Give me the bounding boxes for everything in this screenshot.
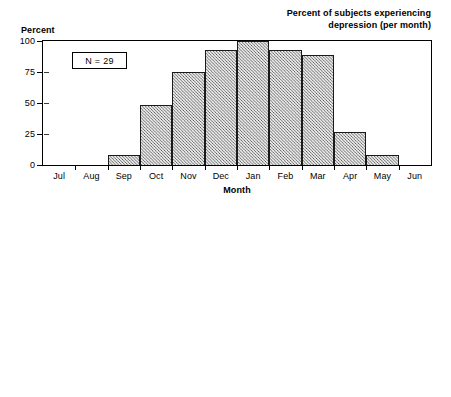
bar-slot (302, 41, 334, 165)
x-tick-label: Aug (75, 171, 107, 181)
bar-slot (269, 41, 301, 165)
y-minor-tick-mark (44, 103, 49, 104)
y-tick-mark (37, 41, 43, 42)
x-tick-mark (172, 165, 173, 170)
x-tick-mark (366, 165, 367, 170)
bar (366, 155, 398, 165)
bar (140, 105, 172, 165)
bar (108, 155, 140, 165)
x-axis-labels-depression: JulAugSepOctNovDecJanFebMarAprMayJun (43, 171, 431, 181)
x-tick-mark (205, 165, 206, 170)
x-tick-label: Jul (43, 171, 75, 181)
bar-slot (172, 41, 204, 165)
y-tick-label: 100 (20, 36, 35, 46)
x-tick-mark (75, 165, 76, 170)
bar (237, 41, 269, 165)
annotation-sample-size: N = 29 (72, 52, 127, 69)
x-tick-label: Oct (140, 171, 172, 181)
bar-slot (366, 41, 398, 165)
x-tick-label: Jan (237, 171, 269, 181)
x-tick-mark (108, 165, 109, 170)
bar (302, 55, 334, 165)
x-tick-label: Sep (108, 171, 140, 181)
x-tick-label: Feb (269, 171, 301, 181)
x-tick-label: Jun (399, 171, 431, 181)
bar-slot (334, 41, 366, 165)
y-tick-mark (37, 165, 43, 166)
panel-title-depression: Percent of subjects experiencing depress… (201, 8, 431, 31)
bar (205, 50, 237, 165)
y-axis-title-percent: Percent (21, 25, 55, 35)
y-tick-label: 50 (25, 98, 35, 108)
panel-depression: Percent of subjects experiencing depress… (0, 0, 451, 198)
panel-photoperiod: Average daily photoperiod for each month… (0, 198, 451, 397)
y-minor-tick-mark (44, 134, 49, 135)
x-tick-label: Apr (334, 171, 366, 181)
bar-slot (140, 41, 172, 165)
x-tick-mark (334, 165, 335, 170)
x-axis-title-month-depression: Month (42, 185, 432, 195)
x-tick-mark (399, 165, 400, 170)
x-tick-mark (302, 165, 303, 170)
figure-two-panel-bar-charts: Percent of subjects experiencing depress… (0, 0, 451, 397)
bar-slot (399, 41, 431, 165)
bar (334, 132, 366, 165)
bar (172, 72, 204, 165)
y-tick-mark (37, 72, 43, 73)
x-tick-label: Nov (172, 171, 204, 181)
x-tick-mark (140, 165, 141, 170)
x-tick-mark (269, 165, 270, 170)
bar-slot (237, 41, 269, 165)
bar (269, 50, 301, 165)
y-tick-label: 25 (25, 129, 35, 139)
x-tick-mark (237, 165, 238, 170)
y-minor-tick-mark (44, 72, 49, 73)
x-tick-label: Dec (205, 171, 237, 181)
y-tick-label: 75 (25, 67, 35, 77)
x-tick-label: May (366, 171, 398, 181)
y-tick-mark (37, 134, 43, 135)
bar-slot (205, 41, 237, 165)
y-tick-label: 0 (30, 160, 35, 170)
x-tick-label: Mar (302, 171, 334, 181)
y-tick-mark (37, 103, 43, 104)
